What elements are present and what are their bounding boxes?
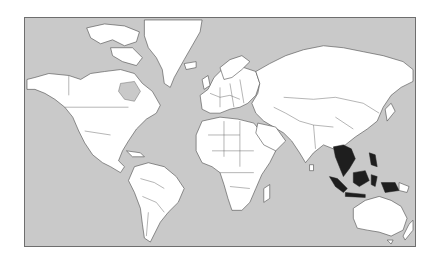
sumatra — [329, 177, 347, 193]
philippines — [369, 153, 377, 167]
png — [399, 183, 409, 193]
iceland — [184, 62, 196, 70]
arctic-islands — [87, 24, 143, 66]
tasmania — [387, 240, 393, 244]
madagascar — [264, 185, 270, 203]
borneo — [353, 171, 369, 187]
sri-lanka — [310, 165, 314, 171]
japan — [385, 103, 395, 121]
north-america — [27, 70, 160, 173]
world-map — [24, 17, 416, 247]
greenland — [144, 20, 202, 87]
sulawesi — [371, 175, 377, 187]
papua — [381, 183, 399, 193]
australia — [353, 196, 407, 236]
java — [345, 192, 365, 197]
caribbean — [126, 151, 144, 157]
world-map-svg — [25, 18, 415, 246]
sea-mainland — [333, 145, 355, 177]
